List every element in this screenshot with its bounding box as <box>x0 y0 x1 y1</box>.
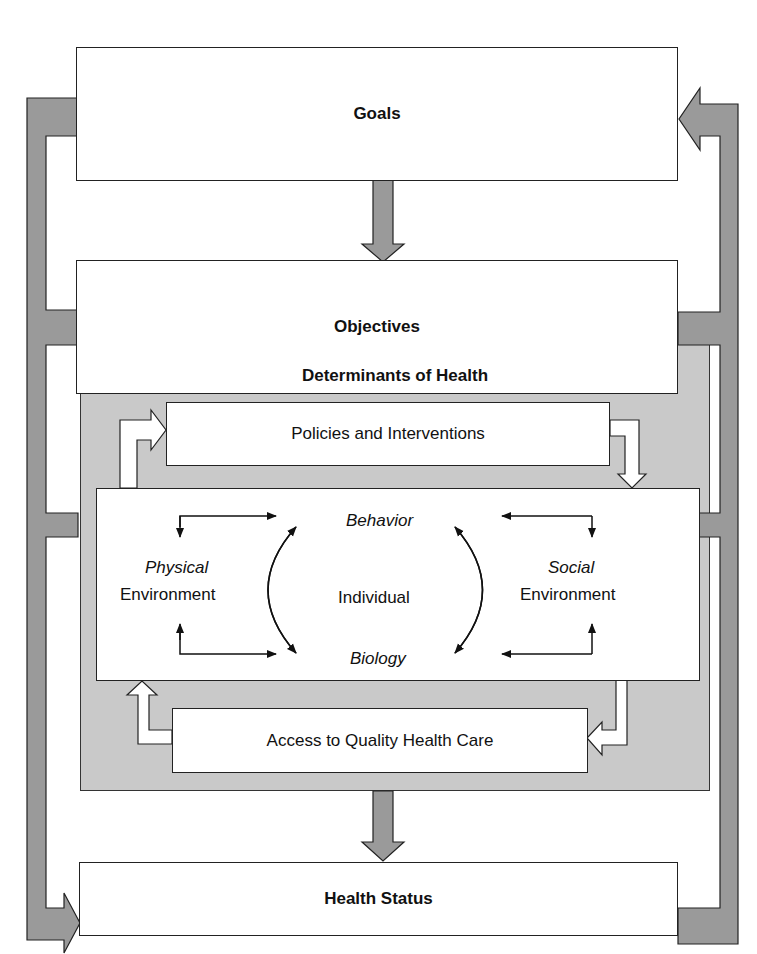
health-status-label: Health Status <box>324 889 433 909</box>
policies-label: Policies and Interventions <box>291 424 485 444</box>
policies-box: Policies and Interventions <box>166 402 610 466</box>
individual-label: Individual <box>338 588 410 608</box>
goals-box: Goals <box>76 47 678 181</box>
determinants-title: Determinants of Health <box>80 366 710 386</box>
left-feedback-arrow <box>27 98 80 953</box>
social-environment-label: Environment <box>520 585 615 605</box>
objectives-label: Objectives <box>334 317 420 337</box>
down-arrow-goals-objectives <box>362 180 404 262</box>
physical-environment-label: Environment <box>120 585 215 605</box>
health-status-box: Health Status <box>79 862 678 936</box>
access-label: Access to Quality Health Care <box>267 731 494 751</box>
goals-label: Goals <box>353 104 400 124</box>
social-label: Social <box>548 558 594 578</box>
physical-label: Physical <box>145 558 208 578</box>
access-box: Access to Quality Health Care <box>172 708 588 773</box>
biology-label: Biology <box>350 649 406 669</box>
behavior-label: Behavior <box>346 511 413 531</box>
